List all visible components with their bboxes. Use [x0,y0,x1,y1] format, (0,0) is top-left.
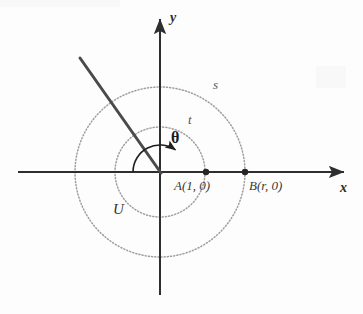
circle-s-label: s [213,77,218,93]
x-axis-label: x [340,180,347,196]
y-axis-label: y [170,10,176,26]
circle-t-label: t [188,112,192,128]
region-u-label: U [113,201,124,218]
figure-vector-layer [0,0,363,314]
angle-arc-theta [133,145,176,172]
math-figure-canvas: y x s t θ U A(1, 0) B(r, 0) [0,0,363,314]
angle-theta-label: θ [171,129,179,147]
point-b-label: B(r, 0) [249,178,282,194]
terminal-ray [80,58,161,173]
point-b-dot [242,169,248,175]
point-a-dot [203,169,209,175]
point-a-label: A(1, 0) [174,178,210,194]
